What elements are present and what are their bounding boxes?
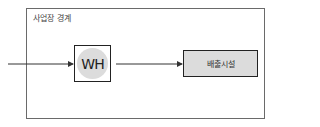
- emission-facility-node: 배출시설: [183, 50, 258, 77]
- wh-circle: WH: [77, 48, 108, 79]
- wh-node: WH: [74, 45, 111, 82]
